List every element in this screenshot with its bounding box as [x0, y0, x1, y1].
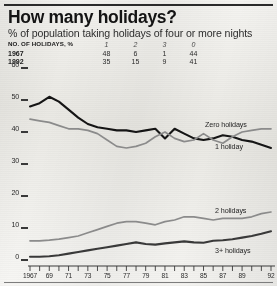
y-axis-tick: [21, 99, 28, 100]
table-row-header-label: NO. OF HOLIDAYS, %: [8, 41, 92, 50]
series-line: [30, 212, 271, 241]
y-axis-tick: [21, 67, 28, 68]
series-label: 2 holidays: [215, 206, 246, 215]
y-axis-tick: [21, 163, 28, 164]
table-column-header: 1: [92, 41, 121, 50]
table-column-header: 3: [150, 41, 179, 50]
y-axis-tick-label: 50: [5, 92, 19, 101]
series-label: 3+ holidays: [215, 246, 250, 255]
x-axis-tick-label: 89: [229, 272, 255, 279]
bottom-rule: [4, 282, 273, 283]
y-axis-tick-label: 40: [5, 124, 19, 133]
page-title: How many holidays?: [8, 7, 177, 28]
top-rule: [4, 4, 273, 6]
y-axis-tick: [21, 131, 28, 132]
y-axis-tick-label: 30: [5, 156, 19, 165]
x-axis-tick-label: 92: [258, 272, 277, 279]
table-header-row: NO. OF HOLIDAYS, % 1 2 3 0: [8, 41, 208, 50]
table-column-header: 0: [179, 41, 208, 50]
y-axis-tick: [21, 259, 28, 260]
y-axis-tick-label: 0: [5, 252, 19, 261]
y-axis-tick: [21, 227, 28, 228]
y-axis-tick-label: 60: [5, 60, 19, 69]
y-axis-tick-label: 10: [5, 220, 19, 229]
page-subtitle: % of population taking holidays of four …: [8, 27, 252, 39]
series-label: Zero holidays: [205, 120, 247, 129]
series-label: 1 holiday: [215, 142, 243, 151]
table-column-header: 2: [121, 41, 150, 50]
line-chart: 0102030405060196769717375777981838587899…: [0, 58, 277, 286]
y-axis-tick: [21, 195, 28, 196]
chart-figure: How many holidays? % of population takin…: [0, 0, 277, 286]
y-axis-tick-label: 20: [5, 188, 19, 197]
